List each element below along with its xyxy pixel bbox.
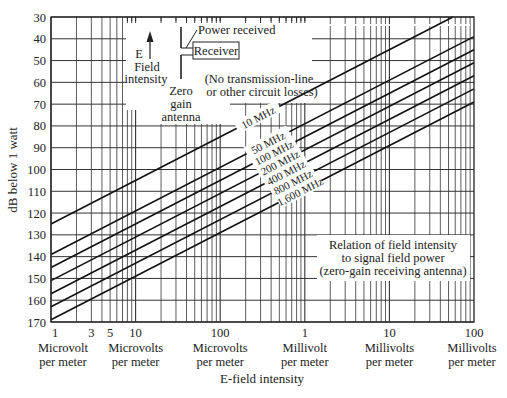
antenna-label: antenna bbox=[162, 110, 201, 124]
x-tick-label: 1 bbox=[52, 326, 58, 340]
title-line-1: Relation of field intensity bbox=[329, 238, 458, 252]
x-tick-label: 100 bbox=[211, 326, 230, 340]
y-tick-label: 90 bbox=[34, 141, 47, 155]
x-unit-label: per meter bbox=[366, 355, 414, 369]
x-tick-label: 100 bbox=[465, 326, 484, 340]
y-tick-label: 60 bbox=[34, 76, 47, 90]
x-tick-label: 3 bbox=[88, 326, 94, 340]
y-tick-label: 40 bbox=[34, 32, 47, 46]
gain-label: gain bbox=[170, 97, 192, 111]
x-axis-label: E-field intensity bbox=[220, 371, 305, 386]
title-line-3: (zero-gain receiving antenna) bbox=[319, 264, 466, 278]
zero-label: Zero bbox=[169, 84, 193, 98]
x-unit-label: Millivolt bbox=[283, 341, 328, 355]
x-unit-label: Millivolts bbox=[365, 341, 414, 355]
x-unit-label: Microvolt bbox=[38, 341, 89, 355]
receiver-label: Receiver bbox=[194, 44, 239, 58]
x-unit-label: Microvolts bbox=[108, 341, 163, 355]
no-losses-line2: or other circuit losses) bbox=[206, 85, 317, 99]
x-unit-label: Millivolts bbox=[447, 341, 496, 355]
y-tick-label: 130 bbox=[27, 228, 46, 242]
y-tick-label: 110 bbox=[28, 185, 46, 199]
x-axis-ticks: 1Microvoltper meter3510Microvoltsper met… bbox=[38, 326, 497, 369]
no-losses-line1: (No transmission-line bbox=[205, 72, 314, 86]
x-unit-label: per meter bbox=[196, 355, 244, 369]
series-line bbox=[51, 102, 474, 320]
x-unit-label: Microvolts bbox=[193, 341, 248, 355]
y-tick-label: 80 bbox=[34, 119, 47, 133]
x-unit-label: per meter bbox=[281, 355, 329, 369]
y-tick-label: 30 bbox=[34, 11, 47, 25]
y-tick-label: 70 bbox=[34, 98, 47, 112]
x-unit-label: per meter bbox=[39, 355, 87, 369]
y-axis-ticks: 30405060708090100110120130140150160170 bbox=[27, 11, 46, 330]
y-tick-label: 50 bbox=[34, 54, 47, 68]
x-tick-label: 5 bbox=[107, 326, 113, 340]
x-tick-label: 10 bbox=[383, 326, 396, 340]
chart-title-box: Relation of field intensity to signal fi… bbox=[317, 235, 470, 281]
y-tick-label: 160 bbox=[27, 294, 46, 308]
y-tick-label: 100 bbox=[27, 163, 46, 177]
power-received-label: Power received bbox=[198, 23, 276, 37]
series-label-group: 10 MHz bbox=[233, 100, 282, 134]
y-tick-label: 170 bbox=[27, 316, 46, 330]
e-label: E bbox=[135, 47, 143, 61]
y-tick-label: 150 bbox=[27, 272, 46, 286]
x-unit-label: per meter bbox=[448, 355, 496, 369]
field-intensity-chart: 10 MHz50 MHz100 MHz200 MHz400 MHz800 MHz… bbox=[0, 0, 507, 398]
y-tick-label: 140 bbox=[27, 250, 46, 264]
y-axis-label: dB below 1 watt bbox=[5, 127, 20, 213]
x-unit-label: per meter bbox=[112, 355, 160, 369]
title-line-2: to signal field power bbox=[341, 251, 445, 265]
x-tick-label: 10 bbox=[129, 326, 142, 340]
y-tick-label: 120 bbox=[27, 207, 46, 221]
intensity-label: intensity bbox=[124, 72, 168, 86]
x-tick-label: 1 bbox=[302, 326, 308, 340]
